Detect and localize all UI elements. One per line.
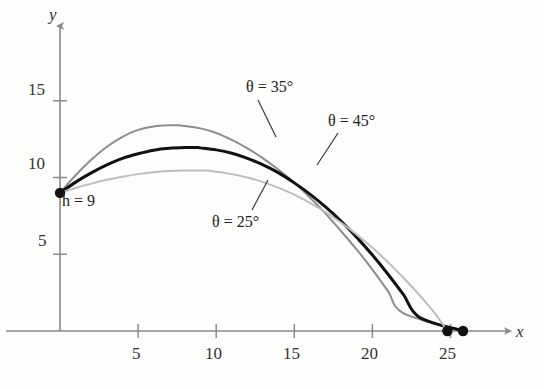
landing-point-marker-0 [442, 326, 452, 336]
y-axis-label: y [49, 6, 57, 23]
curve-group [60, 125, 463, 331]
x-tick-label-25: 25 [439, 345, 456, 362]
x-tick-label-5: 5 [132, 345, 141, 362]
leader-line-theta-45 [317, 133, 338, 165]
x-tick-label-10: 10 [205, 345, 222, 362]
trajectory-curve-0 [60, 125, 463, 331]
leader-line-theta-25 [252, 180, 268, 210]
x-axis-label: x [516, 323, 524, 340]
theta-25-label: θ = 25° [212, 214, 259, 230]
launch-height-label: h = 9 [62, 193, 95, 209]
y-tick-label-5: 5 [38, 232, 47, 249]
y-tick-label-10: 10 [28, 155, 45, 172]
trajectory-curve-2 [60, 170, 447, 331]
theta-45-label: θ = 45° [328, 113, 375, 129]
leader-lines [252, 100, 338, 210]
y-tick-label-15: 15 [28, 81, 45, 98]
x-tick-label-15: 15 [283, 345, 300, 362]
x-tick-label-20: 20 [361, 345, 378, 362]
trajectory-curve-1 [60, 147, 463, 331]
theta-35-label: θ = 35° [246, 79, 293, 95]
projectile-motion-figure: y x 15 10 5 5 10 15 20 25 h = 9 θ = 35° … [0, 0, 544, 389]
leader-line-theta-35 [258, 100, 276, 137]
landing-point-marker-1 [458, 326, 468, 336]
